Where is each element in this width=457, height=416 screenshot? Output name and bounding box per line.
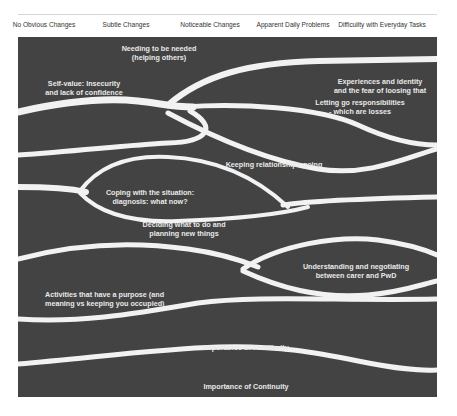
theme-experiences-identity: Experiences and identity and the fear of… [334,77,426,96]
theme-understanding: Understanding and negotiating between ca… [303,262,409,281]
theme-flow-panel: Needing to be needed (helping others) Ex… [18,37,437,397]
stage-noticeable-changes: Noticeable Changes [180,21,239,28]
theme-line: diagnosis: what now? [106,197,194,206]
theme-line: - which are losses [315,107,404,116]
theme-self-value: Self-value: Insecurity and lack of confi… [45,79,122,98]
stage-difficulty-everyday-tasks: Difficulity with Everyday Tasks [338,21,426,28]
theme-line: Coping with the situation: [106,188,194,197]
theme-coping: Coping with the situation: diagnosis: wh… [106,188,194,207]
theme-line: Importance of Familiarity [203,343,288,352]
theme-letting-go: Letting go responsibilities - which are … [315,98,404,117]
theme-line: and the fear of loosing that [334,86,426,95]
theme-line: planning new things [142,229,225,238]
theme-needing-to-be-needed: Needing to be needed (helping others) [122,44,197,63]
theme-importance-continuity: Importance of Continuity [203,382,288,391]
theme-line: Keeping relationships going [226,160,323,169]
stage-header: No Obvious Changes Subtle Changes Notice… [18,14,437,38]
stage-apparent-daily-problems: Apparent Daily Problems [257,21,330,28]
stage-subtle-changes: Subtle Changes [103,21,150,28]
theme-line: Needing to be needed [122,44,197,53]
stage-no-obvious-changes: No Obvious Changes [13,21,76,28]
theme-importance-familiarity: Importance of Familiarity [203,343,288,352]
theme-deciding: Deciding what to do and planning new thi… [142,220,225,239]
theme-line: (helping others) [122,53,197,62]
theme-line: Activities that have a purpose (and [45,290,164,299]
theme-line: Understanding and negotiating [303,262,409,271]
theme-line: between carer and PwD [303,271,409,280]
theme-activities-purpose: Activities that have a purpose (and mean… [45,290,164,309]
theme-line: Experiences and identity [334,77,426,86]
theme-line: Importance of Continuity [203,382,288,391]
theme-line: and lack of confidence [45,88,122,97]
theme-line: meaning vs keeping you occupied) [45,299,164,308]
theme-line: Letting go responsibilities [315,98,404,107]
theme-keeping-relationships: Keeping relationships going [226,160,323,169]
theme-line: Deciding what to do and [142,220,225,229]
theme-line: Self-value: Insecurity [45,79,122,88]
